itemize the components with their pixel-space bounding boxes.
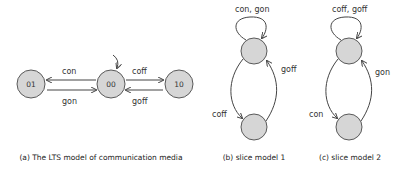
self-loop-con-gon xyxy=(236,17,266,40)
slice1-top-state xyxy=(241,38,267,64)
svg-text:10: 10 xyxy=(174,80,184,89)
diagram-c: coff, goff con gon (c) slice model 2 xyxy=(309,5,390,162)
slice2-bottom-state xyxy=(336,114,362,140)
edge-label-con: con xyxy=(62,67,76,76)
edge-label-coff-goff: coff, goff xyxy=(332,5,368,14)
edge-label-coff: coff xyxy=(132,67,147,76)
slice1-bottom-state xyxy=(241,114,267,140)
caption-c: (c) slice model 2 xyxy=(319,153,381,162)
svg-text:01: 01 xyxy=(26,80,36,89)
edge-label-gon: gon xyxy=(62,97,77,106)
state-node-00: 00 xyxy=(97,70,125,98)
slice2-top-state xyxy=(336,38,362,64)
state-node-01: 01 xyxy=(17,70,45,98)
caption-a: (a) The LTS model of communication media xyxy=(19,153,182,162)
diagram-a: con gon coff goff 01 00 10 (a) The LTS m… xyxy=(17,55,193,162)
edge-label-coff: coff xyxy=(212,110,227,119)
caption-b: (b) slice model 1 xyxy=(223,153,286,162)
self-loop-coff-goff xyxy=(331,17,361,40)
edge-con-top-bottom xyxy=(326,59,338,118)
initial-state-arrow xyxy=(113,55,118,68)
edge-label-goff: goff xyxy=(281,65,297,74)
svg-text:00: 00 xyxy=(106,80,116,89)
state-node-10: 10 xyxy=(165,70,193,98)
edge-label-gon: gon xyxy=(375,68,390,77)
edge-goff-bottom-top xyxy=(266,61,277,121)
diagram-b: con, gon coff goff (b) slice model 1 xyxy=(212,5,297,162)
edge-label-goff: goff xyxy=(132,97,148,106)
edge-gon-bottom-top xyxy=(361,61,372,121)
edge-coff-top-bottom xyxy=(231,59,243,118)
edge-label-con-gon: con, gon xyxy=(235,5,270,14)
figure-canvas: con gon coff goff 01 00 10 (a) The LTS m… xyxy=(0,0,410,177)
edge-label-con: con xyxy=(309,110,323,119)
